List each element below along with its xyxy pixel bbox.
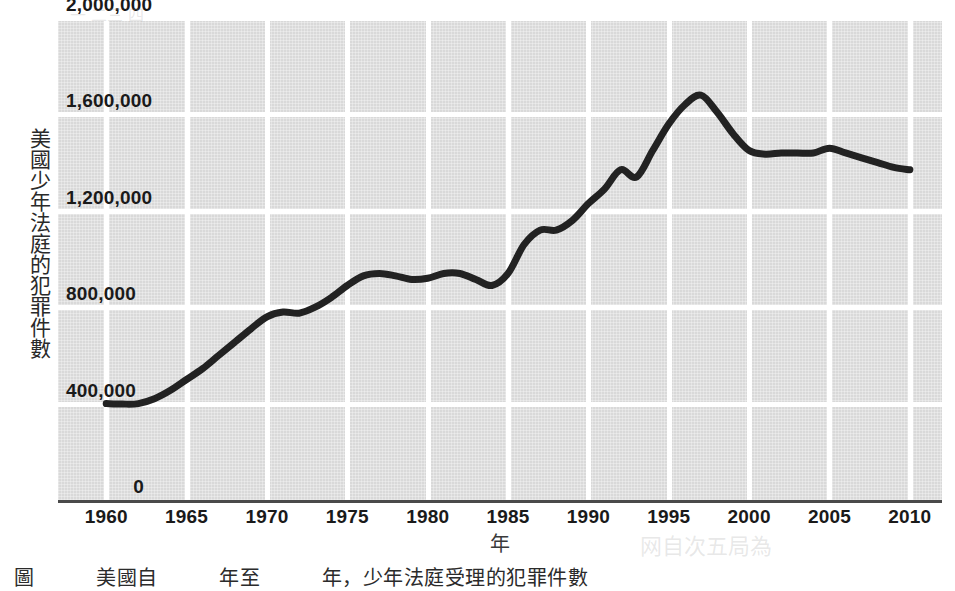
x-axis-tick-label: 2010	[870, 506, 950, 528]
x-axis-tick-label: 1985	[468, 506, 548, 528]
figure-caption: 圖 美國自 年至 年，少年法庭受理的犯罪件數	[14, 562, 588, 591]
x-axis-tick-label: 1965	[147, 506, 227, 528]
page-bleed-artifact: 网自次五局為	[640, 528, 772, 560]
x-axis-tick-label: 2000	[709, 506, 789, 528]
x-axis-line	[58, 500, 942, 503]
y-axis-tick-label: 2,000,000	[66, 0, 186, 16]
x-axis-tick-label: 1970	[227, 506, 307, 528]
y-axis-tick-label: 1,200,000	[66, 187, 186, 209]
x-axis-tick-label: 1975	[307, 506, 387, 528]
data-line-chart	[58, 18, 942, 500]
data-series-line	[106, 95, 910, 404]
y-axis-tick-label: 400,000	[66, 380, 186, 402]
x-axis-tick-label: 1980	[388, 506, 468, 528]
y-axis-title: 美國少年法庭的犯罪件數	[16, 128, 50, 359]
x-axis-tick-label: 1995	[629, 506, 709, 528]
x-axis-tick-label: 2005	[789, 506, 869, 528]
x-axis-title: 年	[460, 528, 540, 557]
y-axis-tick-label: 800,000	[66, 283, 186, 305]
y-axis-tick-label: 0	[44, 476, 144, 498]
y-axis-tick-label: 1,600,000	[66, 90, 186, 112]
x-axis-tick-label: 1990	[548, 506, 628, 528]
x-axis-tick-label: 1960	[66, 506, 146, 528]
plot-area	[58, 18, 942, 500]
